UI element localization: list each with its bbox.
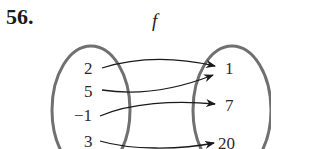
range-value: 20 xyxy=(218,135,235,149)
domain-value: 2 xyxy=(84,60,93,77)
range-value: 1 xyxy=(225,60,234,77)
domain-value: −1 xyxy=(74,107,92,124)
range-value: 7 xyxy=(225,97,234,114)
domain-value: 3 xyxy=(84,133,93,149)
arrow-neg1-to-7 xyxy=(100,102,215,116)
domain-value: 5 xyxy=(84,83,93,100)
